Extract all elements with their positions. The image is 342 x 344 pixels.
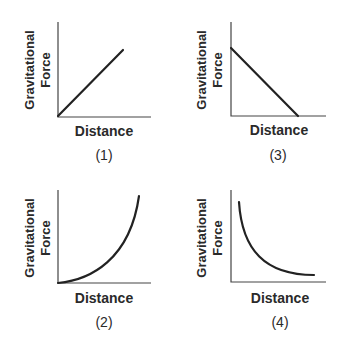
graph-number: (1) — [95, 147, 112, 163]
increasing-curve — [58, 196, 139, 283]
y-axis-label-line2: Force — [210, 220, 225, 255]
x-axis-label: Distance — [251, 290, 310, 306]
graphs-diagram: Gravitational Force Distance (1) Gravita… — [0, 0, 342, 344]
y-axis-label-line1: Gravitational — [194, 30, 209, 109]
graph-number: (2) — [95, 314, 112, 330]
linear-decreasing-line — [231, 48, 298, 116]
axes — [231, 22, 326, 116]
x-axis-label: Distance — [75, 123, 134, 139]
y-axis-label-line1: Gravitational — [22, 198, 37, 277]
graph-number: (4) — [271, 314, 288, 330]
graph-1: Gravitational Force Distance (1) — [22, 22, 151, 163]
y-axis-label-line1: Gravitational — [194, 198, 209, 277]
linear-increasing-line — [58, 50, 123, 116]
inverse-curve — [239, 202, 314, 275]
y-axis-label-line2: Force — [38, 220, 53, 255]
graph-number: (3) — [269, 147, 286, 163]
y-axis-label-line1: Gravitational — [22, 30, 37, 109]
y-axis-label-line2: Force — [38, 52, 53, 87]
graph-4: Gravitational Force Distance (4) — [194, 190, 326, 330]
y-axis-label-line2: Force — [210, 52, 225, 87]
x-axis-label: Distance — [250, 122, 309, 138]
graph-3: Gravitational Force Distance (3) — [194, 22, 326, 163]
graph-2: Gravitational Force Distance (2) — [22, 190, 151, 330]
x-axis-label: Distance — [75, 290, 134, 306]
